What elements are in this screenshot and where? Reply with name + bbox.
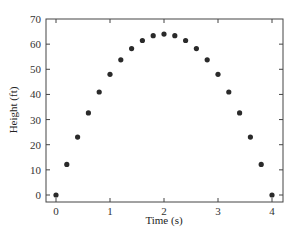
data-point bbox=[151, 33, 156, 38]
y-tick-label: 60 bbox=[30, 38, 42, 50]
data-point bbox=[64, 162, 69, 167]
data-point bbox=[107, 72, 112, 77]
x-tick-label: 4 bbox=[269, 205, 275, 217]
data-point bbox=[205, 57, 210, 62]
y-axis-ticks: 010203040506070 bbox=[30, 13, 283, 201]
y-tick-label: 70 bbox=[30, 13, 42, 25]
y-tick-label: 20 bbox=[30, 139, 42, 151]
y-tick-label: 10 bbox=[30, 164, 42, 176]
data-point bbox=[269, 192, 274, 197]
data-point bbox=[86, 110, 91, 115]
data-point bbox=[259, 162, 264, 167]
x-tick-label: 3 bbox=[215, 205, 221, 217]
plot-area-frame bbox=[46, 19, 283, 202]
data-point bbox=[248, 134, 253, 139]
data-point bbox=[237, 110, 242, 115]
data-point bbox=[97, 89, 102, 94]
x-tick-label: 0 bbox=[53, 205, 59, 217]
x-tick-label: 1 bbox=[107, 205, 113, 217]
data-point bbox=[194, 46, 199, 51]
data-point bbox=[140, 38, 145, 43]
y-tick-label: 40 bbox=[30, 88, 42, 100]
y-tick-label: 30 bbox=[30, 114, 42, 126]
y-tick-label: 50 bbox=[30, 63, 42, 75]
y-tick-label: 0 bbox=[36, 189, 42, 201]
y-axis-title: Height (ft) bbox=[7, 86, 20, 133]
data-point bbox=[172, 33, 177, 38]
x-axis-ticks: 01234 bbox=[53, 19, 275, 217]
data-point bbox=[226, 89, 231, 94]
data-point bbox=[129, 46, 134, 51]
data-point bbox=[75, 134, 80, 139]
data-point bbox=[161, 31, 166, 36]
scatter-chart: 01234 010203040506070 Time (s) Height (f… bbox=[0, 0, 298, 238]
data-point bbox=[215, 72, 220, 77]
data-point bbox=[53, 192, 58, 197]
x-axis-title: Time (s) bbox=[145, 214, 183, 227]
data-points bbox=[53, 31, 274, 197]
data-point bbox=[183, 38, 188, 43]
data-point bbox=[118, 57, 123, 62]
